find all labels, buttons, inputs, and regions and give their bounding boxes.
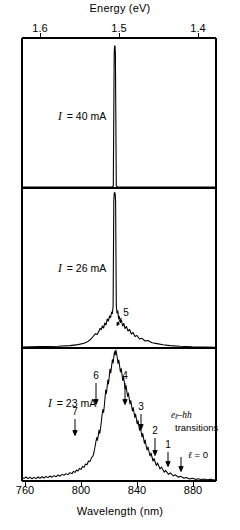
peak-label-6: 6 xyxy=(93,370,99,381)
peak-arrow-6 xyxy=(94,383,98,405)
peak-arrow-7 xyxy=(73,419,77,436)
figure-panel: Energy (eV) 1.6 1.5 1.4 xyxy=(0,0,240,530)
bottom-axis-title: Wavelength (nm) xyxy=(0,505,240,517)
bottom-axis-tick-label: 760 xyxy=(5,484,45,496)
ell-value: = 0 xyxy=(195,449,208,460)
bottom-axis-tick-label: 840 xyxy=(117,484,157,496)
bottom-axis-tick-label: 800 xyxy=(61,484,101,496)
panel-label-40ma: I = 40 mA xyxy=(57,110,106,122)
peak-arrow-ell0 xyxy=(179,457,183,472)
peak-label-4: 4 xyxy=(122,370,128,381)
peak-label-3: 3 xyxy=(138,401,144,412)
peak-arrow-1 xyxy=(166,452,170,467)
bottom-axis-ticks xyxy=(25,481,193,487)
peak-label-2: 2 xyxy=(152,425,158,436)
ell-zero-annotation: ℓ = 0 xyxy=(188,449,208,460)
peak-label-7: 7 xyxy=(72,406,78,417)
panel-label-26ma: I = 26 mA xyxy=(57,262,106,274)
peak-label-1: 1 xyxy=(165,439,171,450)
top-axis-ticks xyxy=(40,33,198,38)
ell-symbol: ℓ xyxy=(188,450,192,460)
peak-label-5-panel2: 5 xyxy=(123,307,129,318)
peak-arrow-3 xyxy=(139,414,143,430)
bottom-axis-tick-label: 880 xyxy=(173,484,213,496)
trace-40ma xyxy=(22,46,216,187)
transitions-annotation: eℓ–hh transitions xyxy=(171,409,218,434)
transitions-symbol-hh: –hh xyxy=(177,410,191,420)
peak-arrow-2 xyxy=(153,438,157,456)
transitions-word: transitions xyxy=(171,422,218,433)
